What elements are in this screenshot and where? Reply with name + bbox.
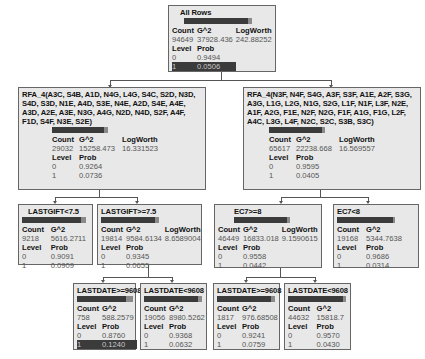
tree-node-lr-left[interactable]: LASTDATE>=9608 CountG^2 758588.2579 Leve… [73,283,136,350]
count-header: Count [337,225,366,234]
level-value: 1 [22,261,51,270]
highlighted-level-row: 10.0506 [172,62,275,71]
level-header: Level [337,243,366,252]
logworth-header: LogWorth [339,135,378,144]
prob-header: Prob [126,243,165,252]
logworth-value: 9.1590615 [282,234,321,243]
prob-value: 0.1240 [102,340,137,349]
prob-value: 0.0655 [126,261,165,270]
level-value: 1 [217,340,242,349]
count-header: Count [218,225,243,234]
g2-value: 16833.018 [243,234,282,243]
tree-node-right[interactable]: RFA_4(N3F, N4F, S4G, A3F, S3F, A1E, A2F,… [243,87,421,190]
count-value: 44632 [288,313,317,322]
level-header: Level [218,243,243,252]
node-split-label: LASTGIFT>=7.5 [101,207,198,216]
node-split-label: LASTDATE<9608 [288,286,347,295]
prob-value: 0.0632 [169,340,208,349]
node-stats: CountG^2 1817976.68508 LevelProb 00.9241… [217,304,281,349]
tree-node-lr-right[interactable]: LASTDATE<9608 CountG^2 190568980.5262 Le… [140,283,207,350]
tree-node-left-right[interactable]: LASTGIFT>=7.5 CountG^2LogWorth 198149584… [97,204,202,265]
prob-header: Prob [197,44,236,53]
prob-header: Prob [296,153,339,162]
count-value: 46449 [218,234,243,243]
g2-header: G^2 [51,225,89,234]
level-value: 0 [337,252,366,261]
logworth-value: 242.88252 [236,35,275,44]
prob-value: 0.9345 [126,252,165,261]
tree-node-left-left[interactable]: LASTGIFT<7.5 CountG^2 92185616.2711 Leve… [18,204,93,265]
connector [103,277,173,278]
tree-node-right-left[interactable]: EC7>=8 CountG^2LogWorth 4644916833.0189.… [214,204,322,268]
level-value: 0 [101,252,126,261]
prob-bar [101,217,159,223]
level-value: 1 [337,261,366,270]
prob-value: 0.9241 [242,331,281,340]
node-split-label: LASTDATE<9608 [144,286,203,295]
prob-value: 0.9570 [317,331,347,340]
prob-value: 0.0405 [296,171,339,180]
node-stats: CountG^2LogWorth 198149584.61348.6589004… [101,225,204,270]
count-value: 1817 [217,313,242,322]
prob-value: 0.0759 [242,340,281,349]
count-value: 19814 [101,234,126,243]
prob-header: Prob [79,153,122,162]
prob-header: Prob [51,243,89,252]
connector [320,190,321,197]
tree-node-root[interactable]: All Rows CountG^2LogWorth 9464937928.436… [168,5,276,72]
prob-bar [77,296,133,302]
level-header: Level [101,243,126,252]
connector [246,277,316,278]
level-value: 1 [52,171,79,180]
level-value: 1 [144,340,169,349]
prob-header: Prob [169,322,208,331]
node-stats: CountG^2LogWorth 6561722238.66816.569557… [269,135,378,180]
prob-header: Prob [243,243,282,252]
count-value: 758 [77,313,102,322]
highlighted-level-row: 10.1240 [77,340,137,349]
node-stats: CountG^2 190568980.5262 LevelProb 00.936… [144,304,208,349]
connector [281,197,369,198]
prob-value: 0.9686 [366,252,405,261]
prob-value: 0.9558 [243,252,282,261]
count-value: 94649 [172,35,197,44]
count-header: Count [269,135,296,144]
connector [55,197,137,198]
count-header: Count [77,304,102,313]
level-value: 1 [77,340,102,349]
prob-bar [269,127,325,133]
node-split-label: EC7>=8 [218,207,318,216]
level-value: 0 [172,53,197,62]
node-split-label: LASTGIFT<7.5 [22,207,89,216]
level-value: 0 [288,331,317,340]
level-value: 1 [288,340,317,349]
tree-node-rl-left[interactable]: LASTDATE>=9608 CountG^2 1817976.68508 Le… [213,283,280,350]
tree-node-right-right[interactable]: EC7<8 CountG^2 191685344.7638 LevelProb … [333,204,419,268]
g2-header: G^2 [243,225,282,234]
prob-value: 0.0442 [243,261,282,270]
count-header: Count [144,304,169,313]
node-split-label: LASTDATE>=9608 [217,286,276,295]
level-value: 1 [172,62,197,71]
node-stats: CountG^2LogWorth 9464937928.436242.88252… [172,26,275,71]
g2-value: 8980.5262 [169,313,208,322]
level-value: 0 [144,331,169,340]
node-stats: CountG^2 191685344.7638 LevelProb 00.968… [337,225,405,270]
tree-node-left[interactable]: RFA_4(A3C, S4B, A1D, N4G, L4G, S4C, S2D,… [18,87,206,190]
g2-header: G^2 [197,26,236,35]
level-value: 0 [269,162,296,171]
prob-value: 0.0314 [366,261,405,270]
connector [221,72,222,80]
g2-value: 15818.7 [317,313,347,322]
tree-node-rl-right[interactable]: LASTDATE<9608 CountG^2 4463215818.7 Leve… [284,283,351,350]
count-header: Count [217,304,242,313]
prob-bar [184,18,252,24]
level-value: 1 [101,261,126,270]
g2-header: G^2 [102,304,137,313]
node-stats: CountG^2 4463215818.7 LevelProb 00.9570 … [288,304,347,349]
level-value: 0 [217,331,242,340]
count-header: Count [101,225,126,234]
node-split-label: All Rows [172,8,272,17]
count-header: Count [52,135,79,144]
connector [99,190,100,197]
